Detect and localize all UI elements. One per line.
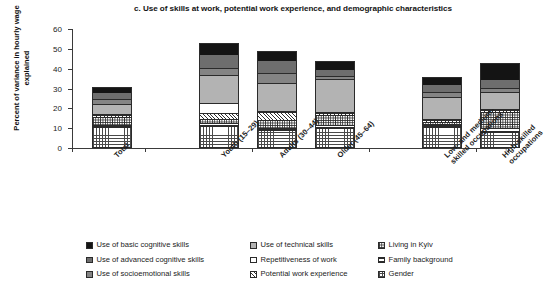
- chart-title: c. Use of skills at work, potential work…: [78, 4, 508, 13]
- y-axis-tick: 20: [68, 108, 72, 109]
- bar-segment: [423, 85, 461, 93]
- plot-area: 0102030405060: [72, 29, 508, 148]
- y-axis-tick-label: 20: [53, 104, 62, 113]
- bar-segment: [200, 76, 238, 104]
- bar-segment: [93, 118, 131, 126]
- legend-swatch-grid-icon: [378, 271, 385, 278]
- bar-3[interactable]: [257, 51, 297, 148]
- legend-label: Use of advanced cognitive skills: [97, 255, 205, 265]
- bar-segment: [481, 80, 519, 90]
- bar-segment: [93, 93, 131, 100]
- legend-label: Use of socioemotional skills: [97, 269, 190, 279]
- legend-item[interactable]: Use of basic cognitive skills: [86, 238, 204, 253]
- legend-swatch-light-gray-icon: [250, 242, 257, 249]
- legend-swatch-dark-gray-icon: [86, 257, 93, 264]
- legend-column-3: Living in KyivFamily backgroundGender: [378, 238, 453, 282]
- bar-segment: [258, 61, 296, 74]
- bar-segment: [481, 64, 519, 80]
- bar-segment: [316, 70, 354, 77]
- legend-swatch-mid-gray-icon: [86, 271, 93, 278]
- bar-segment: [316, 116, 354, 126]
- x-axis-tick: [145, 148, 146, 152]
- x-axis-tick: [72, 148, 73, 152]
- bar-segment: [200, 44, 238, 55]
- legend-label: Repetitiveness of work: [261, 255, 337, 265]
- legend-swatch-white-icon: [250, 257, 257, 264]
- bar-segment: [200, 104, 238, 114]
- y-axis-tick: 40: [68, 69, 72, 70]
- y-axis-tick: 50: [68, 49, 72, 50]
- y-axis-tick-label: 40: [53, 64, 62, 73]
- y-axis-title: Percent of variance in hourly wage expla…: [12, 3, 32, 133]
- x-axis-tick: [476, 148, 477, 152]
- bar-segment: [258, 74, 296, 84]
- y-axis-title-wrapper: Percent of variance in hourly wage expla…: [12, 3, 38, 133]
- legend-label: Gender: [389, 269, 414, 279]
- legend-column-1: Use of basic cognitive skillsUse of adva…: [86, 238, 204, 282]
- legend-swatch-check-icon: [378, 242, 385, 249]
- y-axis-tick-label: 0: [58, 144, 62, 153]
- bar-segment: [93, 105, 131, 115]
- y-axis-tick: 30: [68, 89, 72, 90]
- bar-segment: [316, 62, 354, 71]
- bar-segment: [316, 80, 354, 113]
- bar-5[interactable]: [422, 77, 462, 148]
- bar-segment: [258, 121, 296, 129]
- bar-2[interactable]: [199, 43, 239, 148]
- bar-1[interactable]: [92, 87, 132, 148]
- y-axis-tick-label: 50: [53, 44, 62, 53]
- legend-item[interactable]: Use of technical skills: [250, 238, 347, 253]
- legend-label: Use of technical skills: [261, 240, 334, 250]
- bar-4[interactable]: [315, 61, 355, 148]
- y-axis-tick-label: 60: [53, 25, 62, 34]
- legend-swatch-black-icon: [86, 242, 93, 249]
- legend-label: Family background: [389, 255, 453, 265]
- legend-label: Potential work experience: [261, 269, 348, 279]
- legend-item[interactable]: Repetitiveness of work: [250, 253, 347, 268]
- chart-legend: Use of basic cognitive skillsUse of adva…: [86, 238, 506, 282]
- legend-item[interactable]: Use of advanced cognitive skills: [86, 253, 204, 268]
- x-axis-tick: [369, 148, 370, 152]
- y-axis-tick-label: 30: [53, 84, 62, 93]
- y-axis-tick: 60: [68, 29, 72, 30]
- legend-label: Living in Kyiv: [389, 240, 433, 250]
- legend-item[interactable]: Gender: [378, 267, 453, 282]
- bar-segment: [200, 55, 238, 69]
- bar-segment: [258, 113, 296, 121]
- y-axis-tick: 10: [68, 128, 72, 129]
- y-axis-tick-label: 10: [53, 124, 62, 133]
- legend-item[interactable]: Use of socioemotional skills: [86, 267, 204, 282]
- legend-label: Use of basic cognitive skills: [97, 240, 189, 250]
- bar-segment: [258, 84, 296, 112]
- bar-segment: [423, 98, 461, 120]
- bar-segment: [258, 52, 296, 61]
- bar-segment: [200, 69, 238, 76]
- legend-swatch-diagonal-icon: [250, 271, 257, 278]
- y-axis-line: [72, 29, 73, 148]
- x-axis-tick: [252, 148, 253, 152]
- legend-item[interactable]: Family background: [378, 253, 453, 268]
- legend-column-2: Use of technical skillsRepetitiveness of…: [250, 238, 347, 282]
- legend-item[interactable]: Living in Kyiv: [378, 238, 453, 253]
- legend-swatch-hlines-icon: [378, 257, 385, 264]
- bar-segment: [423, 78, 461, 85]
- legend-item[interactable]: Potential work experience: [250, 267, 347, 282]
